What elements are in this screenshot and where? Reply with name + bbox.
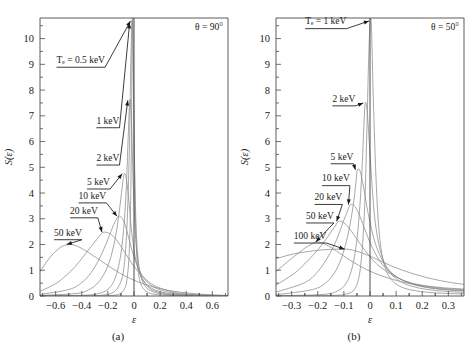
x-tick-label: 0.3 bbox=[442, 300, 455, 311]
curve-annotation: Tₑ = 0.5 keV bbox=[57, 21, 131, 67]
curve-annotation: 5 keV bbox=[331, 152, 356, 170]
curve-annotation-label: 20 keV bbox=[70, 206, 98, 216]
x-tick-label: 0.4 bbox=[180, 300, 194, 311]
x-tick-label: −0.3 bbox=[282, 300, 301, 311]
y-tick-label: 8 bbox=[265, 85, 270, 96]
y-tick-label: 9 bbox=[29, 59, 34, 70]
y-tick-label: 1 bbox=[29, 265, 34, 276]
y-axis-title: S(ε) bbox=[239, 148, 251, 165]
x-tick-label: 0.1 bbox=[390, 300, 403, 311]
y-tick-label: 0 bbox=[265, 291, 270, 302]
y-tick-label: 7 bbox=[265, 110, 270, 121]
curve-annotation-label: 5 keV bbox=[87, 177, 110, 187]
annotation-arrowhead bbox=[336, 216, 340, 222]
curve-annotation-label: 5 keV bbox=[331, 152, 354, 162]
curve-annotation-label: 2 keV bbox=[96, 153, 119, 163]
curve-annotation-label: 50 keV bbox=[306, 211, 334, 221]
annotation-arrow bbox=[119, 100, 127, 165]
curve-annotation-label: 1 keV bbox=[96, 116, 119, 126]
x-tick-label: 0 bbox=[367, 300, 372, 311]
curve-annotation-label: 50 keV bbox=[54, 228, 82, 238]
curve-annotation: 50 keV bbox=[54, 228, 82, 245]
plot-area-b: 012345678910−0.3−0.2−0.100.10.20.3εS(ε)θ… bbox=[236, 0, 472, 330]
x-tick-label: −0.1 bbox=[334, 300, 353, 311]
curve-annotation-label: 10 keV bbox=[79, 191, 107, 201]
curve-annotation-label: 10 keV bbox=[322, 173, 350, 183]
x-tick-label: 0.2 bbox=[416, 300, 429, 311]
curve-annotation: 100 keV bbox=[294, 231, 345, 250]
y-tick-label: 7 bbox=[29, 110, 34, 121]
annotation-arrowhead bbox=[358, 103, 364, 107]
annotation-arrowhead bbox=[125, 100, 129, 105]
annotation-arrowhead bbox=[352, 164, 356, 170]
curve-annotation-label: Tₑ = 1 keV bbox=[305, 16, 346, 26]
plot-area-a: 012345678910−0.6−0.4−0.200.20.40.6εS(ε)θ… bbox=[0, 0, 236, 330]
panel-b-caption: (b) bbox=[236, 330, 472, 342]
x-tick-label: 0.2 bbox=[154, 300, 167, 311]
y-tick-label: 3 bbox=[265, 213, 270, 224]
curve-annotation-label: 20 keV bbox=[315, 192, 343, 202]
curve-annotation-label: 100 keV bbox=[294, 231, 327, 241]
x-tick-label: 0.6 bbox=[206, 300, 219, 311]
annotation-arrow bbox=[105, 21, 130, 67]
x-axis-title: ε bbox=[132, 314, 137, 325]
figure-container: 012345678910−0.6−0.4−0.200.20.40.6εS(ε)θ… bbox=[0, 0, 472, 351]
x-axis-title: ε bbox=[368, 314, 373, 325]
scattering-angle-label: θ = 50° bbox=[431, 22, 459, 32]
annotation-arrowhead bbox=[67, 241, 73, 245]
y-tick-label: 2 bbox=[29, 239, 34, 250]
y-tick-label: 3 bbox=[29, 213, 34, 224]
y-tick-label: 4 bbox=[29, 188, 35, 199]
curve-annotation-label: 2 keV bbox=[332, 94, 355, 104]
y-tick-label: 5 bbox=[265, 162, 270, 173]
scattering-angle-label: θ = 90° bbox=[195, 22, 223, 32]
curve-annotation: 5 keV bbox=[87, 174, 122, 189]
y-tick-label: 0 bbox=[29, 291, 34, 302]
y-tick-label: 9 bbox=[265, 59, 270, 70]
x-tick-label: 0 bbox=[131, 300, 136, 311]
y-tick-label: 5 bbox=[29, 162, 34, 173]
curve-annotation-label: Tₑ = 0.5 keV bbox=[57, 55, 106, 65]
panel-a-caption: (a) bbox=[0, 330, 236, 342]
y-tick-label: 10 bbox=[24, 33, 35, 44]
y-tick-label: 10 bbox=[260, 33, 271, 44]
y-tick-label: 2 bbox=[265, 239, 270, 250]
x-tick-label: −0.2 bbox=[98, 300, 117, 311]
plot-panel-a: 012345678910−0.6−0.4−0.200.20.40.6εS(ε)θ… bbox=[0, 0, 236, 351]
curve-annotation: 2 keV bbox=[332, 94, 363, 107]
y-tick-label: 4 bbox=[265, 188, 271, 199]
annotation-arrowhead bbox=[363, 21, 369, 25]
y-axis-title: S(ε) bbox=[3, 148, 15, 165]
x-tick-label: −0.6 bbox=[46, 300, 65, 311]
annotation-arrowhead bbox=[339, 246, 345, 250]
y-tick-label: 1 bbox=[265, 265, 270, 276]
plot-panel-b: 012345678910−0.3−0.2−0.100.10.20.3εS(ε)θ… bbox=[236, 0, 472, 351]
y-tick-label: 6 bbox=[29, 136, 34, 147]
x-tick-label: −0.2 bbox=[308, 300, 327, 311]
annotation-arrowhead bbox=[99, 227, 103, 233]
y-tick-label: 6 bbox=[265, 136, 270, 147]
curve-annotation: 2 keV bbox=[96, 100, 129, 165]
y-tick-label: 8 bbox=[29, 85, 34, 96]
x-tick-label: −0.4 bbox=[72, 300, 92, 311]
